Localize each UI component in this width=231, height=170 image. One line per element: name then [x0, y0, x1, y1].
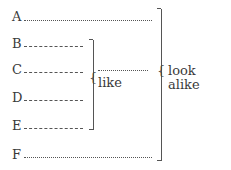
diagram: A B C D E F { like { look alike	[0, 0, 231, 170]
leader-e	[24, 128, 83, 129]
leader-d	[24, 100, 83, 101]
leader-c	[24, 72, 83, 73]
letter-c: C	[12, 63, 22, 77]
letter-d: D	[12, 91, 22, 105]
inner-bracket	[93, 40, 94, 130]
letter-e: E	[12, 119, 22, 133]
outer-bracket	[161, 9, 162, 161]
letter-f: F	[12, 148, 21, 162]
leader-f	[24, 157, 152, 158]
letter-b: B	[12, 37, 22, 51]
like-label: like	[98, 76, 122, 90]
leader-b	[24, 46, 83, 47]
like-connector	[98, 70, 148, 71]
letter-a: A	[12, 10, 21, 24]
outer-brace-icon: {	[157, 64, 165, 78]
leader-a	[24, 20, 152, 21]
inner-brace-icon: {	[89, 71, 97, 85]
outer-bracket-bottom	[157, 160, 161, 161]
inner-bracket-bottom	[89, 129, 93, 130]
look-alike-label: look alike	[168, 64, 231, 92]
